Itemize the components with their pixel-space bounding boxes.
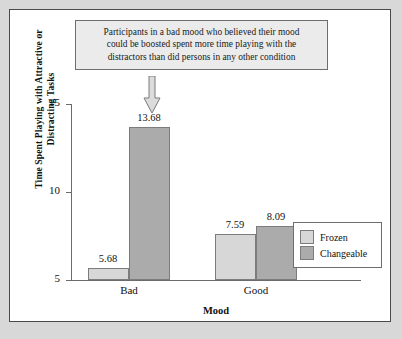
legend-label-frozen: Frozen (320, 232, 348, 243)
bar-bad-changeable[interactable] (129, 127, 170, 280)
bar-good-changeable[interactable] (256, 226, 297, 280)
bar-value-good-changeable: 8.09 (253, 211, 299, 222)
y-axis-title: Time Spent Playing with Attractive or Di… (28, 11, 62, 207)
y-axis-title-line-2: Distracting Tasks (45, 73, 57, 146)
y-tick-10 (66, 192, 71, 193)
plot-area: 15 10 5 Time Spent Playing with Attracti… (10, 10, 392, 323)
bar-value-bad-frozen: 5.68 (85, 253, 131, 264)
x-axis-line (71, 280, 361, 281)
y-axis-line (71, 104, 72, 281)
legend-swatch-changeable (300, 246, 314, 260)
bar-good-frozen[interactable] (215, 234, 256, 280)
y-axis-title-line-1: Time Spent Playing with Attractive or (33, 29, 45, 188)
legend-item-frozen[interactable]: Frozen (300, 230, 376, 244)
legend-item-changeable[interactable]: Changeable (300, 246, 376, 260)
bar-value-good-frozen: 7.59 (212, 219, 258, 230)
legend-swatch-frozen (300, 230, 314, 244)
legend-label-changeable: Changeable (320, 248, 367, 259)
figure-panel: Participants in a bad mood who believed … (9, 9, 391, 322)
y-tick-label-5: 5 (36, 272, 60, 284)
bar-bad-frozen[interactable] (88, 268, 129, 280)
x-category-label-bad: Bad (94, 284, 164, 296)
x-axis-title: Mood (71, 305, 361, 316)
bar-value-bad-changeable: 13.68 (126, 112, 172, 123)
y-tick-15 (66, 104, 71, 105)
y-tick-5 (66, 280, 71, 281)
x-category-label-good: Good (221, 284, 291, 296)
chart-legend: Frozen Changeable (293, 222, 382, 268)
